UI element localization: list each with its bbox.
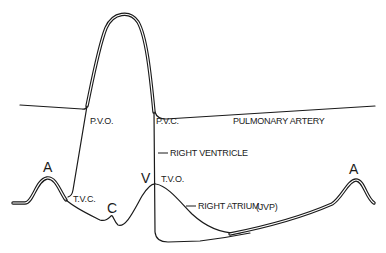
pulmonary-artery-trace-left — [20, 105, 87, 109]
label-jvp: (JVP) — [256, 202, 278, 212]
label-wave-v: V — [141, 170, 151, 186]
label-wave-a-left: A — [43, 159, 53, 175]
label-right-ventricle: RIGHT VENTRICLE — [170, 148, 248, 158]
pressure-waveform-diagram: P.V.O. P.V.C. PULMONARY ARTERY RIGHT VEN… — [0, 0, 386, 253]
label-tvo: T.V.O. — [161, 174, 184, 184]
label-right-atrium: RIGHT ATRIUM — [198, 201, 259, 211]
ventricle-rise-line — [68, 106, 87, 197]
label-pvc: P.V.C. — [156, 116, 179, 126]
right-atrium-a-wave-left-outer — [13, 178, 66, 203]
label-pvo: P.V.O. — [90, 116, 113, 126]
right-ventricle-arch-outer — [87, 14, 154, 112]
label-tvc: T.V.C. — [73, 194, 95, 204]
label-wave-c: C — [107, 200, 117, 216]
label-wave-a-right: A — [349, 161, 359, 177]
label-pulmonary-artery: PULMONARY ARTERY — [233, 116, 325, 126]
